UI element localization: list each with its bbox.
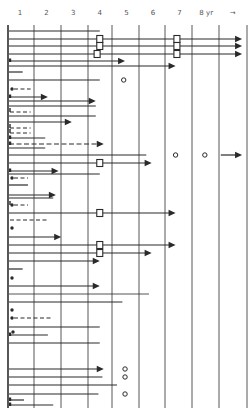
start-tick <box>9 59 11 63</box>
arrow-head-icon <box>97 141 104 147</box>
arrow-head-icon <box>235 51 242 57</box>
arrow-head-icon <box>169 63 176 69</box>
arrow-head-icon <box>93 283 100 289</box>
square-marker-icon <box>174 51 180 58</box>
circle-marker-icon <box>173 153 177 157</box>
arrow-head-icon <box>93 258 100 264</box>
arrow-head-icon <box>169 210 176 216</box>
square-marker-icon <box>97 210 103 217</box>
start-tick <box>9 142 11 146</box>
arrow-head-icon <box>169 242 176 248</box>
arrow-head-icon <box>235 43 242 49</box>
square-marker-icon <box>97 36 103 43</box>
arrow-head-icon <box>52 168 59 174</box>
dot-marker-icon <box>11 330 14 333</box>
circle-marker-icon <box>123 392 127 396</box>
dot-marker-icon <box>10 203 13 206</box>
dot-marker-icon <box>10 308 13 311</box>
arrow-head-icon <box>54 234 61 240</box>
arrow-head-icon <box>41 94 48 100</box>
start-tick <box>9 95 11 99</box>
dot-marker-icon <box>10 276 13 279</box>
arrow-head-icon <box>145 250 152 256</box>
circle-marker-icon <box>203 153 207 157</box>
square-marker-icon <box>97 250 103 257</box>
arrow-head-icon <box>97 366 104 372</box>
dot-marker-icon <box>10 176 13 179</box>
start-tick <box>9 136 11 140</box>
arrow-head-icon <box>49 192 56 198</box>
dot-marker-icon <box>10 226 13 229</box>
dot-marker-icon <box>10 316 13 319</box>
square-marker-icon <box>174 43 180 50</box>
square-marker-icon <box>174 36 180 43</box>
circle-marker-icon <box>123 375 127 379</box>
square-marker-icon <box>97 160 103 167</box>
arrow-head-icon <box>235 36 242 42</box>
circle-marker-icon <box>123 367 127 371</box>
arrow-head-icon <box>145 160 152 166</box>
square-marker-icon <box>94 51 100 58</box>
arrow-head-icon <box>118 58 125 64</box>
arrow-head-icon <box>89 98 96 104</box>
start-tick <box>9 333 11 337</box>
arrow-head-icon <box>235 152 242 158</box>
swimmer-plot <box>0 0 251 415</box>
start-tick <box>9 403 11 407</box>
start-tick <box>9 398 11 402</box>
square-marker-icon <box>97 242 103 249</box>
dot-marker-icon <box>10 87 13 90</box>
arrow-head-icon <box>65 119 72 125</box>
start-tick <box>9 169 11 173</box>
square-marker-icon <box>97 43 103 50</box>
circle-marker-icon <box>122 78 126 82</box>
